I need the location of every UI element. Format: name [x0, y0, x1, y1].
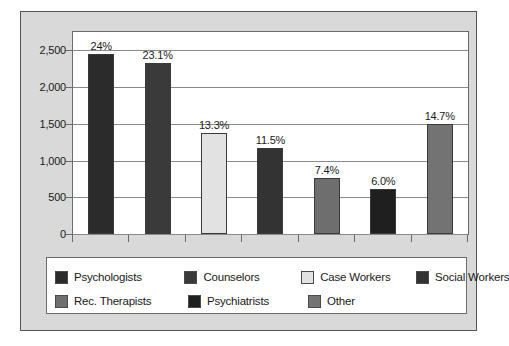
chart-frame: 05001,0001,5002,0002,500 24%23.1%13.3%11…	[20, 11, 477, 331]
x-axis-tick-mark	[354, 235, 355, 242]
bar	[88, 54, 114, 234]
legend-swatch-icon	[416, 271, 429, 284]
chart-legend: PsychologistsCounselorsCase WorkersSocia…	[46, 257, 467, 314]
legend-row: Rec. TherapistsPsychiatristsOther	[55, 289, 466, 313]
bar-series: 24%23.1%13.3%11.5%7.4%6.0%14.7%	[73, 32, 468, 234]
legend-label: Psychologists	[74, 271, 142, 283]
legend-item[interactable]: Case Workers	[301, 271, 416, 284]
legend-item[interactable]: Counselors	[184, 271, 301, 284]
bar-data-label: 14.7%	[425, 110, 455, 122]
legend-swatch-icon	[188, 295, 201, 308]
y-axis-tick-label: 1,500	[39, 118, 66, 130]
bar-slot: 7.4%	[299, 32, 355, 234]
y-axis-tick-label: 2,000	[39, 81, 66, 93]
x-axis-tick-mark	[241, 235, 242, 242]
bar-data-label: 6.0%	[371, 175, 395, 187]
legend-item[interactable]: Psychologists	[55, 271, 184, 284]
bar	[257, 148, 283, 234]
legend-item[interactable]: Other	[308, 295, 426, 308]
x-axis-tick-mark	[467, 235, 468, 242]
x-axis-tick-mark	[128, 235, 129, 242]
bar-slot: 13.3%	[186, 32, 242, 234]
legend-label: Counselors	[203, 271, 259, 283]
bar-slot: 24%	[73, 32, 129, 234]
legend-label: Rec. Therapists	[74, 295, 151, 307]
legend-swatch-icon	[55, 271, 68, 284]
legend-item[interactable]: Psychiatrists	[188, 295, 308, 308]
bar	[370, 189, 396, 234]
legend-swatch-icon	[308, 295, 321, 308]
bar-data-label: 13.3%	[199, 119, 229, 131]
y-axis: 05001,0001,5002,0002,500	[21, 31, 72, 235]
legend-swatch-icon	[184, 271, 197, 284]
bar-data-label: 24%	[90, 40, 111, 52]
x-axis-tick-mark	[411, 235, 412, 242]
bar-slot: 14.7%	[412, 32, 468, 234]
y-axis-tick-label: 2,500	[39, 44, 66, 56]
bar	[201, 133, 227, 234]
x-axis-tick-mark	[185, 235, 186, 242]
bar-data-label: 7.4%	[315, 164, 339, 176]
legend-label: Case Workers	[320, 271, 390, 283]
bar-slot: 6.0%	[355, 32, 411, 234]
bar-slot: 23.1%	[129, 32, 185, 234]
legend-label: Other	[327, 295, 355, 307]
bar	[314, 178, 340, 234]
legend-item[interactable]: Social Workers	[416, 271, 466, 284]
plot-area: 24%23.1%13.3%11.5%7.4%6.0%14.7%	[72, 31, 469, 235]
bar-slot: 11.5%	[242, 32, 298, 234]
x-axis-tick-mark	[72, 235, 73, 242]
bar	[145, 63, 171, 234]
bar-data-label: 23.1%	[143, 49, 173, 61]
legend-label: Psychiatrists	[207, 295, 269, 307]
x-axis-ticks	[72, 235, 469, 242]
legend-row: PsychologistsCounselorsCase WorkersSocia…	[55, 265, 466, 289]
x-axis-tick-mark	[298, 235, 299, 242]
legend-item[interactable]: Rec. Therapists	[55, 295, 188, 308]
bar	[427, 124, 453, 234]
legend-label: Social Workers	[435, 271, 509, 283]
legend-swatch-icon	[301, 271, 314, 284]
y-axis-tick-label: 500	[48, 191, 66, 203]
bar-data-label: 11.5%	[256, 134, 285, 146]
legend-swatch-icon	[55, 295, 68, 308]
y-axis-tick-label: 1,000	[39, 155, 66, 167]
